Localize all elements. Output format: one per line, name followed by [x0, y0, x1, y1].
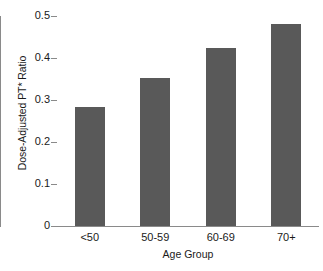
x-axis-title: Age Group [57, 248, 319, 261]
bar [271, 24, 301, 226]
x-axis-line [57, 226, 319, 227]
y-axis-tick-mark [51, 16, 57, 17]
y-axis-line [0, 16, 1, 227]
y-axis-tick-label: 0 [24, 220, 50, 231]
y-axis-tick-mark [51, 58, 57, 59]
bar-chart: Dose-Adjusted PT* Ratio 0.50.40.30.20.10… [0, 0, 323, 271]
y-axis-tick-mark [51, 226, 57, 227]
x-axis-tick-label: 70+ [254, 231, 320, 244]
bar [206, 48, 236, 226]
y-axis-tick-label: 0.2 [24, 136, 50, 147]
y-axis-tick-label: 0.3 [24, 94, 50, 105]
y-axis-tick-labels: 0.50.40.30.20.10 [24, 0, 50, 271]
x-axis-tick-labels: <5050-5960-6970+ [57, 231, 319, 247]
y-axis-tick-mark [51, 184, 57, 185]
y-axis-tick-label: 0.4 [24, 52, 50, 63]
bar [75, 107, 105, 226]
y-axis-tick-label: 0.1 [24, 178, 50, 189]
y-axis-tick-mark [51, 142, 57, 143]
y-axis-tick-mark [51, 100, 57, 101]
bar [140, 78, 170, 226]
x-axis-tick-label: 60-69 [188, 231, 254, 244]
y-axis-tick-label: 0.5 [24, 10, 50, 21]
x-axis-tick-label: 50-59 [123, 231, 189, 244]
plot-area [57, 16, 319, 226]
x-axis-tick-label: <50 [57, 231, 123, 244]
